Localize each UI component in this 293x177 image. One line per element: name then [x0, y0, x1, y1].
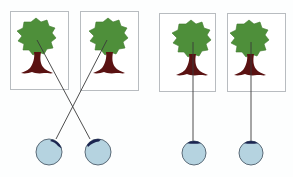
- eye-1: [36, 139, 62, 165]
- image-inversion-diagram: [0, 0, 293, 177]
- frame-3: [160, 14, 216, 92]
- eye-2: [85, 139, 111, 165]
- frame-1: [11, 12, 69, 90]
- eye-4: [239, 141, 263, 165]
- eye-3: [182, 141, 206, 165]
- frame-2: [81, 12, 139, 91]
- diagram-stage: [0, 0, 293, 177]
- frame-4: [228, 14, 286, 92]
